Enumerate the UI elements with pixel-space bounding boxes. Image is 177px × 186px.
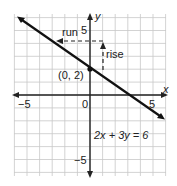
coordinate-plane bbox=[0, 0, 177, 186]
point-0-2 bbox=[87, 66, 92, 71]
x-axis-label: x bbox=[163, 84, 169, 95]
y-axis-down-arrow-icon bbox=[87, 171, 93, 178]
point-label: (0, 2) bbox=[58, 70, 84, 81]
x-tick-5: 5 bbox=[149, 99, 155, 110]
run-label: run bbox=[62, 27, 78, 38]
y-axis-label: y bbox=[95, 11, 101, 22]
y-tick-5: 5 bbox=[81, 25, 87, 36]
y-axis-up-arrow-icon bbox=[87, 13, 93, 20]
equation-text: 2x + 3y = 6 bbox=[94, 129, 148, 141]
y-tick-neg5: −5 bbox=[74, 155, 87, 166]
rise-run-guides bbox=[56, 38, 106, 70]
x-tick-neg5: −5 bbox=[18, 99, 31, 110]
equation-label: 2x + 3y = 6 bbox=[94, 130, 148, 141]
x-tick-0: 0 bbox=[82, 99, 88, 110]
rise-label: rise bbox=[106, 49, 124, 60]
